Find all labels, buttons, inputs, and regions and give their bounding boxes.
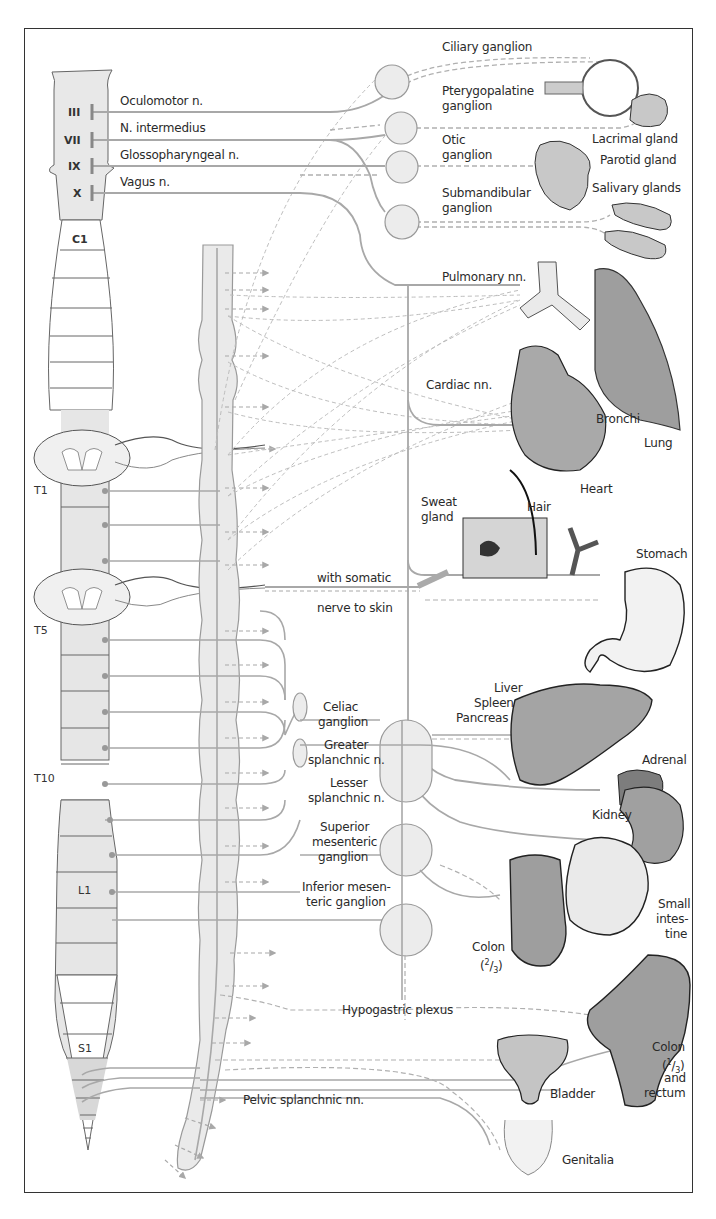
label-small-int-1: Small: [658, 897, 690, 912]
label-parotid: Parotid gland: [600, 153, 676, 168]
label-somatic-1: with somatic: [317, 571, 391, 586]
segment-t1: T1: [34, 484, 48, 497]
label-lung: Lung: [644, 436, 673, 451]
label-inf-mes-1: Inferior mesen-: [302, 880, 391, 895]
label-bladder: Bladder: [550, 1087, 595, 1102]
label-small-int-3: tine: [665, 927, 687, 942]
head-ganglia: [375, 65, 419, 239]
label-colon-23-fraction: (2/3): [480, 955, 503, 978]
label-glossopharyngeal: Glossopharyngeal n.: [120, 148, 239, 163]
label-ciliary-ganglion: Ciliary ganglion: [442, 40, 532, 55]
label-pancreas: Pancreas: [456, 711, 508, 726]
label-salivary: Salivary glands: [592, 181, 681, 196]
label-oculomotor: Oculomotor n.: [120, 94, 203, 109]
label-pterygopalatine-1: Pterygopalatine: [442, 84, 534, 99]
label-sup-mes-1: Superior: [320, 820, 369, 835]
label-pterygopalatine-2: ganglion: [442, 99, 492, 114]
label-bronchi: Bronchi: [596, 412, 640, 427]
segment-l1: L1: [78, 884, 91, 897]
label-spleen: Spleen: [474, 696, 514, 711]
segment-c1: C1: [72, 233, 88, 246]
numeral-iii: III: [68, 106, 80, 119]
label-hypogastric: Hypogastric plexus: [342, 1003, 453, 1018]
label-small-int-2: intes-: [656, 912, 688, 927]
label-stomach: Stomach: [636, 547, 688, 562]
label-vagus: Vagus n.: [120, 175, 170, 190]
label-greater-2: splanchnic n.: [308, 753, 385, 768]
label-pulmonary: Pulmonary nn.: [442, 270, 526, 285]
segment-t5: T5: [34, 624, 48, 637]
label-rectum: rectum: [644, 1086, 685, 1101]
label-celiac-2: ganglion: [318, 715, 368, 730]
numeral-vii: VII: [64, 134, 81, 147]
segment-s1: S1: [78, 1042, 92, 1055]
label-sweat-1: Sweat: [421, 495, 457, 510]
label-pelvic-splanchnic: Pelvic splanchnic nn.: [243, 1093, 364, 1108]
numeral-x: X: [73, 187, 81, 200]
label-otic-2: ganglion: [442, 148, 492, 163]
label-genitalia: Genitalia: [562, 1153, 614, 1168]
segment-t10: T10: [34, 772, 55, 785]
label-colon-13: Colon: [652, 1040, 685, 1055]
label-heart: Heart: [580, 482, 612, 497]
label-intermedius: N. intermedius: [120, 121, 205, 136]
label-liver: Liver: [494, 681, 522, 696]
label-sup-mes-3: ganglion: [318, 850, 368, 865]
label-hair: Hair: [527, 500, 551, 515]
label-kidney: Kidney: [592, 808, 632, 823]
label-colon-23: Colon: [472, 940, 505, 955]
label-colon-13-and: and: [664, 1071, 686, 1086]
label-cardiac: Cardiac nn.: [426, 378, 492, 393]
label-sweat-2: gland: [421, 510, 454, 525]
label-lesser-1: Lesser: [330, 776, 367, 791]
label-sup-mes-2: mesenteric: [312, 835, 377, 850]
label-lesser-2: splanchnic n.: [308, 791, 385, 806]
sympathetic-trunk: [177, 245, 239, 1170]
label-celiac-1: Celiac: [323, 700, 358, 715]
label-otic-1: Otic: [442, 133, 465, 148]
numeral-ix: IX: [68, 160, 81, 173]
label-submandibular-2: ganglion: [442, 201, 492, 216]
label-lacrimal: Lacrimal gland: [592, 132, 678, 147]
label-inf-mes-2: teric ganglion: [306, 895, 386, 910]
label-greater-1: Greater: [324, 738, 368, 753]
label-somatic-2: nerve to skin: [317, 601, 393, 616]
label-adrenal: Adrenal: [642, 753, 687, 768]
label-submandibular-1: Submandibular: [442, 186, 531, 201]
